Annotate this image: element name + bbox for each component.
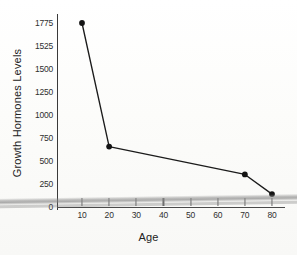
data-point-marker <box>269 191 275 197</box>
series-line <box>82 23 272 194</box>
data-point-marker <box>106 144 112 150</box>
chart-screenshot: 177515251500125010007505002500 102030405… <box>0 0 297 255</box>
plot-area: 177515251500125010007505002500 102030405… <box>0 0 297 255</box>
y-axis-title-container: Growth Hormones Levels <box>7 13 25 213</box>
data-series <box>0 0 297 255</box>
data-point-marker <box>242 172 248 178</box>
x-axis-title: Age <box>0 231 297 243</box>
series-markers <box>79 20 275 197</box>
y-axis-title: Growth Hormones Levels <box>11 49 23 178</box>
data-point-marker <box>79 20 85 26</box>
